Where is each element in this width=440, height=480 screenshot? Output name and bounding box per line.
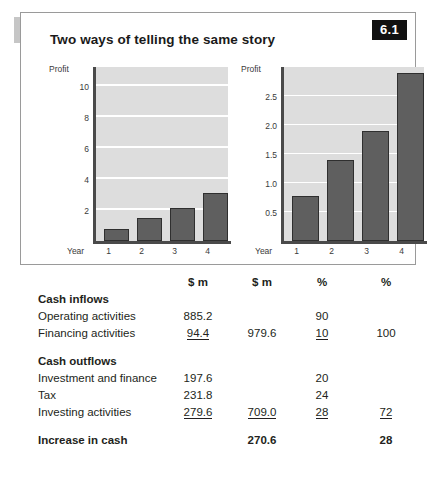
table-header-row: $ m $ m % % — [0, 276, 440, 293]
bar-left-year-1 — [104, 229, 129, 241]
row-label: Tax — [38, 389, 56, 401]
chart-right-ytick-15: 1.5 — [239, 150, 277, 160]
chart-left-ytick-2: 2 — [47, 206, 89, 216]
column-header-4: % — [352, 276, 420, 288]
chart-left-xtick-3: 3 — [160, 246, 189, 256]
table-row: Operating activities 885.2 90 — [0, 310, 440, 327]
row-value-3: 20 — [288, 372, 356, 384]
chart-left-ytick-4: 4 — [47, 175, 89, 185]
row-label: Investing activities — [38, 406, 131, 418]
page-title: Two ways of telling the same story — [50, 32, 275, 47]
row-value-1: 279.6 — [184, 406, 213, 419]
bar-left-year-2 — [137, 218, 162, 241]
row-label: Investment and finance — [38, 372, 157, 384]
total-value-4: 28 — [352, 434, 420, 446]
gridline — [96, 115, 228, 117]
chart-right-xtick-1: 1 — [281, 246, 312, 256]
row-value-1: 231.8 — [158, 389, 238, 401]
chart-left-xlabel: Year — [67, 246, 84, 256]
section-spacer — [0, 344, 440, 355]
chart-right-xlabel: Year — [255, 246, 272, 256]
row-label: Financing activities — [38, 327, 135, 339]
row-value-3: 24 — [288, 389, 356, 401]
column-header-3: % — [288, 276, 356, 288]
gridline — [96, 84, 228, 86]
chart-right-ytick-25: 2.5 — [239, 92, 277, 102]
chart-right-xtick-2: 2 — [316, 246, 347, 256]
chart-left: Profit 2 4 6 8 — [47, 63, 232, 263]
chart-right-x-axis — [281, 241, 427, 244]
row-value-4: 100 — [352, 327, 420, 339]
section-heading-cash-inflows: Cash inflows — [0, 293, 440, 310]
exhibit-panel: Two ways of telling the same story 6.1 P… — [20, 12, 416, 265]
chart-right-ytick-20: 2.0 — [239, 121, 277, 131]
table-total-row: Increase in cash 270.6 28 — [0, 434, 440, 451]
row-label: Operating activities — [38, 310, 136, 322]
row-value-1: 885.2 — [158, 310, 238, 322]
row-value-3: 90 — [288, 310, 356, 322]
bar-right-year-4 — [397, 73, 424, 241]
section-heading-label: Cash inflows — [38, 293, 109, 305]
table-row: Financing activities 94.4 979.6 10 100 — [0, 327, 440, 344]
table-row: Investment and finance 197.6 20 — [0, 372, 440, 389]
row-value-4: 72 — [380, 406, 393, 419]
chart-left-x-axis — [93, 241, 231, 244]
bar-right-year-3 — [362, 131, 389, 241]
bar-left-year-3 — [170, 208, 195, 241]
chart-right-ytick-10: 1.0 — [239, 179, 277, 189]
chart-left-xtick-4: 4 — [193, 246, 222, 256]
chart-right-plot-bg — [284, 67, 424, 241]
chart-right-ytick-05: 0.5 — [239, 208, 277, 218]
row-value-1: 94.4 — [187, 327, 209, 340]
section-heading-cash-outflows: Cash outflows — [0, 355, 440, 372]
row-value-3: 10 — [316, 327, 329, 340]
chart-left-ytick-6: 6 — [47, 144, 89, 154]
gridline — [96, 177, 228, 179]
chart-left-ytick-10: 10 — [47, 82, 89, 92]
row-value-3: 28 — [316, 406, 329, 419]
bar-left-year-4 — [203, 193, 228, 241]
chart-left-xtick-2: 2 — [127, 246, 156, 256]
total-value-2: 270.6 — [222, 434, 302, 446]
chart-right: Profit 0.5 1.0 1.5 2.0 2.5 Yea — [239, 63, 429, 263]
chart-right-xtick-4: 4 — [386, 246, 417, 256]
chart-left-ytick-8: 8 — [47, 113, 89, 123]
table-row: Investing activities 279.6 709.0 28 72 — [0, 406, 440, 423]
chart-left-plot-bg — [96, 67, 228, 241]
cash-flow-table: $ m $ m % % Cash inflows Operating activ… — [0, 276, 440, 451]
chart-left-plot-area: 2 4 6 8 10 Year 1 2 3 4 — [47, 63, 232, 263]
bar-right-year-2 — [327, 160, 354, 241]
row-value-2: 709.0 — [248, 406, 277, 419]
chart-right-plot-area: 0.5 1.0 1.5 2.0 2.5 Year 1 2 3 4 — [239, 63, 429, 263]
gridline — [96, 146, 228, 148]
row-value-1: 197.6 — [158, 372, 238, 384]
chart-left-xtick-1: 1 — [94, 246, 123, 256]
chart-right-xtick-3: 3 — [351, 246, 382, 256]
section-heading-label: Cash outflows — [38, 355, 117, 367]
table-row: Tax 231.8 24 — [0, 389, 440, 406]
total-label: Increase in cash — [38, 434, 128, 446]
exhibit-number-badge: 6.1 — [372, 20, 407, 40]
bar-right-year-1 — [292, 196, 319, 241]
total-spacer — [0, 423, 440, 434]
